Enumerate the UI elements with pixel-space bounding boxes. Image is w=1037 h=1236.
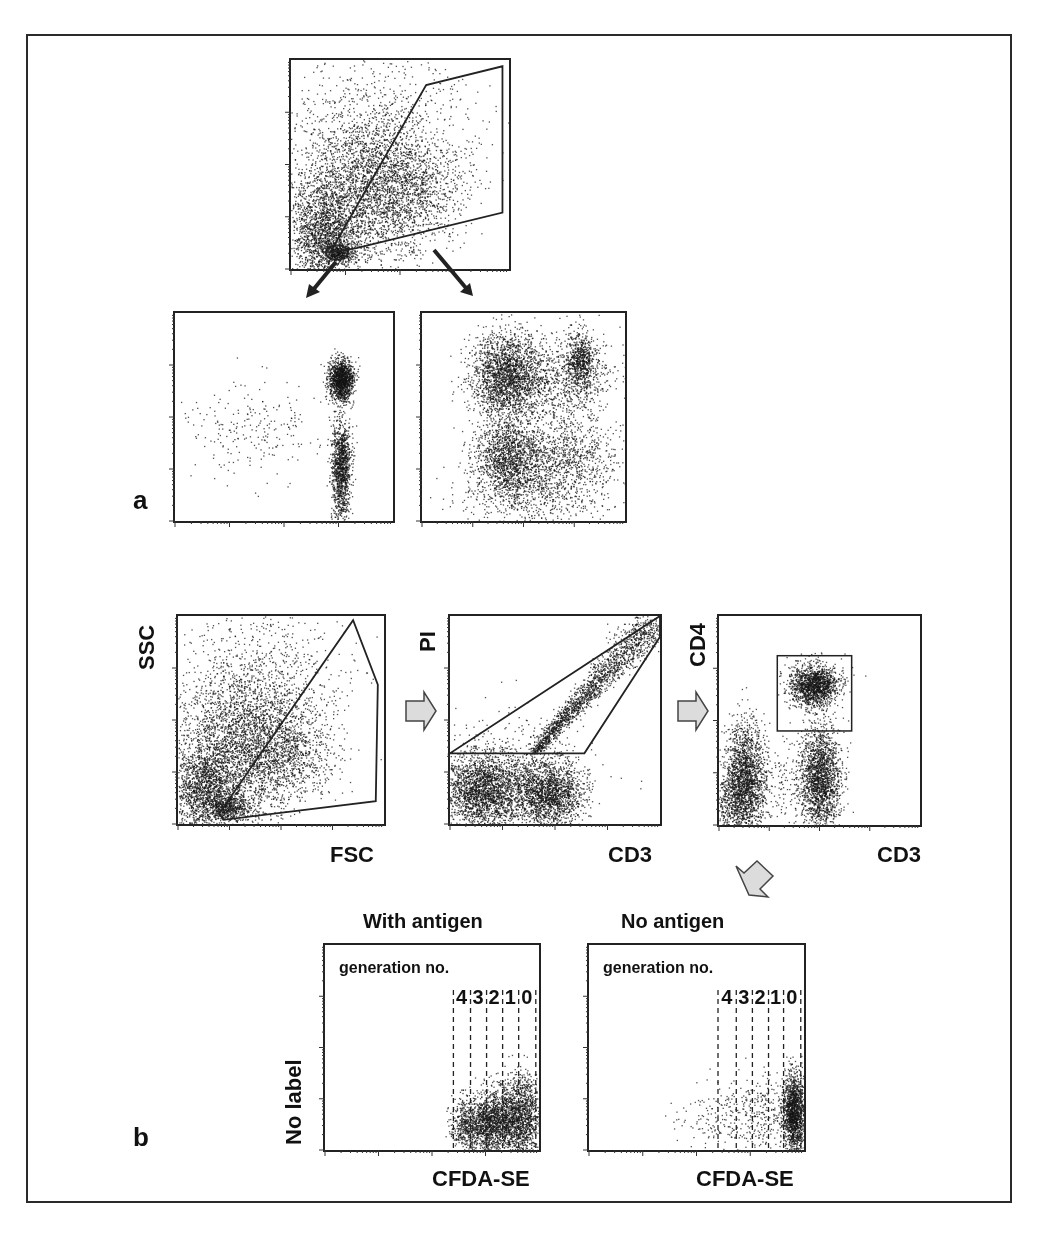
plot-overlay	[719, 616, 920, 825]
x-axis-label-cfda-se: CFDA-SE	[432, 1166, 530, 1192]
panel-letter-b: b	[133, 1122, 149, 1153]
gate-polygon	[219, 620, 378, 820]
generation-label-0: 0	[786, 986, 797, 1009]
plot-b-fsc-ssc	[176, 614, 386, 826]
x-axis-label-fsc: FSC	[330, 842, 374, 868]
generation-label-1: 1	[505, 986, 516, 1009]
generation-number-label: generation no.	[339, 959, 449, 977]
plot-title-no-antigen: No antigen	[621, 910, 724, 933]
plot-overlay	[450, 616, 660, 824]
generation-number-label: generation no.	[603, 959, 713, 977]
generation-label-0: 0	[521, 986, 532, 1009]
plot-b-cd3-pi	[448, 614, 662, 826]
generation-label-1: 1	[770, 986, 781, 1009]
plot-overlay	[175, 313, 393, 521]
generation-label-3: 3	[738, 986, 749, 1009]
plot-a-right	[420, 311, 627, 523]
panel-letter-a: a	[133, 485, 147, 516]
generation-label-2: 2	[489, 986, 500, 1009]
generation-label-2: 2	[754, 986, 765, 1009]
x-axis-label-cd3: CD3	[608, 842, 652, 868]
plot-with-antigen: generation no.43210	[323, 943, 541, 1152]
y-axis-label-cd4: CD4	[685, 623, 711, 667]
plot-top-fsc-ssc	[289, 58, 511, 271]
plot-no-antigen: generation no.43210	[587, 943, 806, 1152]
gate-polygon	[450, 616, 660, 753]
generation-label-3: 3	[473, 986, 484, 1009]
plot-overlay	[178, 616, 384, 824]
gate-ellipse	[326, 245, 348, 260]
generation-label-4: 4	[456, 986, 467, 1009]
x-axis-label-cfda-se-2: CFDA-SE	[696, 1166, 794, 1192]
y-axis-label-ssc: SSC	[134, 625, 160, 670]
gate-polygon	[330, 66, 502, 252]
plot-title-with-antigen: With antigen	[363, 910, 483, 933]
plot-overlay	[422, 313, 625, 521]
y-axis-label-no-label: No label	[281, 1059, 307, 1145]
x-axis-label-cd3-2: CD3	[877, 842, 921, 868]
plot-overlay	[291, 60, 509, 269]
plot-a-left	[173, 311, 395, 523]
plot-b-cd3-cd4	[717, 614, 922, 827]
generation-label-4: 4	[721, 986, 732, 1009]
y-axis-label-pi: PI	[415, 631, 441, 652]
gate-rectangle	[777, 656, 851, 731]
